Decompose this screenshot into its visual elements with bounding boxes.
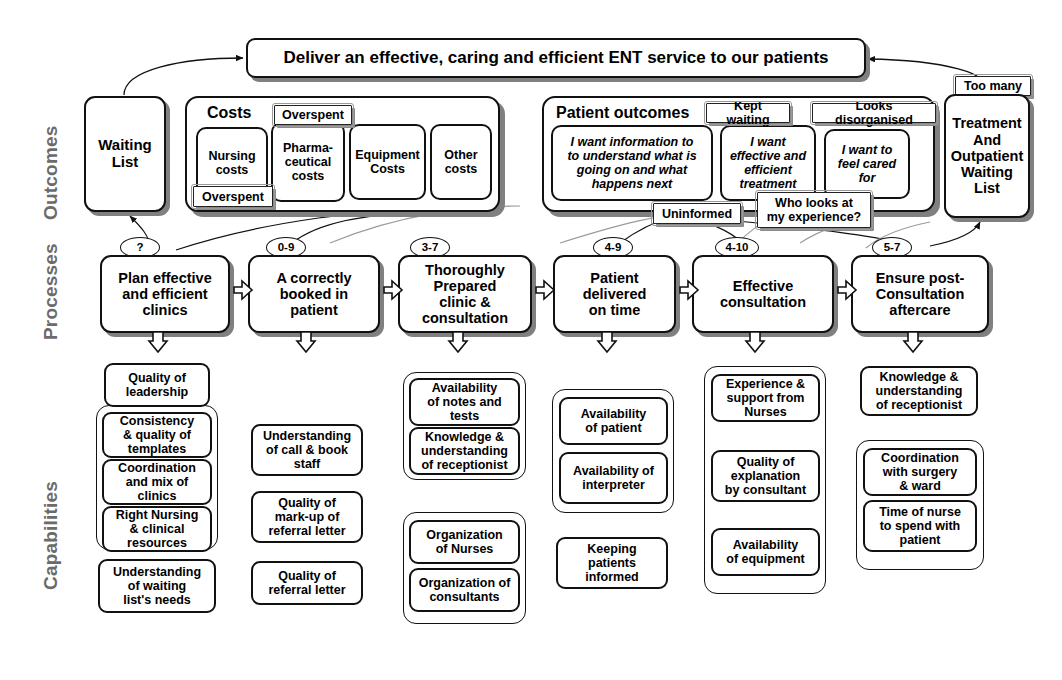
process-box-prepared-clinic: Thoroughly Prepared clinic & consultatio… — [398, 255, 532, 333]
capability-time-of-nurse-with-patient: Time of nurse to spend with patient — [863, 500, 977, 552]
outcome-treatment-waiting-list: Treatment And Outpatient Waiting List — [944, 94, 1030, 218]
title-banner: Deliver an effective, caring and efficie… — [246, 38, 866, 78]
tag-who-looks-at-my-experience-text: Who looks at my experience? — [767, 196, 862, 225]
capability-quality-referral-letter: Quality of referral letter — [251, 561, 363, 605]
patient-voice-cared-for-text: I want to feel cared for — [838, 143, 896, 185]
process-badge-1-text: ? — [136, 241, 143, 254]
capability-keeping-patients-informed: Keeping patients informed — [556, 537, 668, 589]
capability-quality-explanation-consultant-text: Quality of explanation by consultant — [725, 455, 806, 497]
capability-coordination-surgery-ward-text: Coordination with surgery & ward — [881, 451, 959, 493]
capability-availability-of-interpreter-text: Availability of interpreter — [573, 464, 654, 492]
patient-voice-cared-for: I want to feel cared for — [824, 129, 910, 199]
capability-knowledge-understanding-receptionist-col6: Knowledge & understanding of receptionis… — [860, 366, 978, 416]
process-box-prepared-clinic-text: Thoroughly Prepared clinic & consultatio… — [422, 262, 508, 327]
tag-kept-waiting-text: Kept waiting — [711, 99, 785, 127]
capability-understanding-call-book-staff: Understanding of call & book staff — [251, 424, 363, 476]
tag-overspent-top-text: Overspent — [282, 108, 344, 122]
capability-quality-of-leadership-text: Quality of leadership — [126, 371, 189, 399]
capability-quality-referral-letter-text: Quality of referral letter — [268, 569, 345, 597]
capability-understanding-waiting-list-text: Understanding of waiting list's needs — [113, 565, 201, 607]
capability-organization-of-consultants-text: Organization of consultants — [419, 576, 511, 604]
process-box-plan-clinics-text: Plan effective and efficient clinics — [118, 270, 212, 319]
diagram-canvas: Outcomes Processes Capabilities Deliver … — [0, 0, 1062, 680]
tag-overspent-top: Overspent — [274, 105, 352, 125]
capability-availability-of-equipment-text: Availability of equipment — [726, 538, 804, 566]
cost-box-pharmaceutical-text: Pharma- ceutical costs — [283, 141, 333, 183]
capability-right-nursing-resources-text: Right Nursing & clinical resources — [116, 508, 199, 550]
process-badge-6-text: 5-7 — [884, 241, 901, 254]
capability-availability-of-equipment: Availability of equipment — [711, 528, 820, 576]
process-badge-4-text: 4-9 — [605, 241, 622, 254]
capability-knowledge-understanding-receptionist-col3: Knowledge & understanding of receptionis… — [409, 427, 520, 475]
cost-box-equipment-text: Equipment Costs — [355, 148, 420, 176]
capability-quality-explanation-consultant: Quality of explanation by consultant — [711, 450, 820, 502]
cost-box-other-text: Other costs — [444, 148, 477, 176]
capability-keeping-patients-informed-text: Keeping patients informed — [585, 542, 638, 584]
cost-box-equipment: Equipment Costs — [349, 124, 426, 200]
capability-organization-of-consultants: Organization of consultants — [409, 568, 520, 612]
capability-quality-markup-referral: Quality of mark-up of referral letter — [251, 491, 363, 543]
cost-box-pharmaceutical: Pharma- ceutical costs — [271, 122, 345, 202]
tag-too-many: Too many — [955, 76, 1031, 96]
capability-experience-support-nurses: Experience & support from Nurses — [711, 374, 820, 422]
patient-voice-information-text: I want information to to understand what… — [567, 135, 696, 191]
tag-looks-disorganised: Looks disorganised — [812, 103, 936, 123]
row-label-capabilities: Capabilities — [40, 481, 62, 590]
tag-uninformed: Uninformed — [653, 203, 741, 224]
process-box-effective-consultation: Effective consultation — [692, 255, 834, 333]
process-badge-5-text: 4-10 — [725, 241, 748, 254]
cost-box-nursing-text: Nursing costs — [208, 149, 255, 177]
capability-coordination-mix-clinics: Coordination and mix of clinics — [102, 459, 212, 505]
row-label-outcomes: Outcomes — [40, 125, 62, 220]
capability-availability-of-patient-text: Availability of patient — [581, 407, 647, 435]
capability-organization-of-nurses-text: Organization of Nurses — [426, 528, 502, 556]
tag-overspent-bottom-text: Overspent — [202, 190, 264, 204]
process-badge-2-text: 0-9 — [278, 241, 295, 254]
outcome-waiting-list-text: Waiting List — [98, 137, 152, 171]
capability-consistency-templates: Consistency & quality of templates — [102, 412, 212, 458]
row-label-processes: Processes — [40, 243, 62, 340]
capability-understanding-waiting-list: Understanding of waiting list's needs — [98, 559, 216, 613]
process-box-post-consultation-aftercare: Ensure post- Consultation aftercare — [851, 255, 989, 333]
costs-group-label: Costs — [207, 104, 251, 122]
tag-kept-waiting: Kept waiting — [706, 103, 790, 123]
patient-voice-treatment: I want effective and efficient treatment — [720, 125, 816, 201]
capability-coordination-surgery-ward: Coordination with surgery & ward — [863, 448, 977, 496]
process-box-patient-delivered: Patient delivered on time — [553, 255, 676, 333]
capability-knowledge-understanding-receptionist-col6-text: Knowledge & understanding of receptionis… — [876, 370, 963, 412]
process-box-booked-in-patient: A correctly booked in patient — [248, 255, 380, 333]
process-badge-3-text: 3-7 — [422, 241, 439, 254]
capability-experience-support-nurses-text: Experience & support from Nurses — [726, 377, 805, 419]
tag-uninformed-text: Uninformed — [662, 207, 732, 221]
process-box-effective-consultation-text: Effective consultation — [720, 278, 806, 310]
tag-too-many-text: Too many — [964, 79, 1022, 93]
outcome-waiting-list: Waiting List — [84, 96, 166, 212]
capability-time-of-nurse-with-patient-text: Time of nurse to spend with patient — [879, 505, 961, 547]
title-banner-text: Deliver an effective, caring and efficie… — [283, 48, 828, 67]
patient-outcomes-group-label: Patient outcomes — [556, 104, 689, 122]
capability-availability-of-patient: Availability of patient — [559, 397, 668, 445]
capability-availability-of-interpreter: Availability of interpreter — [559, 452, 668, 504]
capability-organization-of-nurses: Organization of Nurses — [409, 520, 520, 564]
capability-coordination-mix-clinics-text: Coordination and mix of clinics — [118, 461, 196, 503]
tag-who-looks-at-my-experience: Who looks at my experience? — [757, 192, 871, 228]
process-box-booked-in-patient-text: A correctly booked in patient — [276, 270, 351, 319]
process-box-plan-clinics: Plan effective and efficient clinics — [100, 255, 230, 333]
cost-box-other: Other costs — [430, 124, 492, 200]
capability-availability-notes-tests: Availability of notes and tests — [409, 378, 520, 426]
capability-understanding-call-book-staff-text: Understanding of call & book staff — [263, 429, 351, 471]
patient-voice-treatment-text: I want effective and efficient treatment — [730, 135, 806, 191]
capability-availability-notes-tests-text: Availability of notes and tests — [427, 381, 501, 423]
outcome-treatment-waiting-list-text: Treatment And Outpatient Waiting List — [951, 115, 1024, 196]
patient-voice-information: I want information to to understand what… — [551, 125, 713, 201]
capability-right-nursing-resources: Right Nursing & clinical resources — [102, 506, 212, 552]
capability-quality-of-leadership: Quality of leadership — [104, 363, 210, 407]
capability-consistency-templates-text: Consistency & quality of templates — [120, 414, 194, 456]
process-box-post-consultation-aftercare-text: Ensure post- Consultation aftercare — [876, 270, 965, 319]
capability-quality-markup-referral-text: Quality of mark-up of referral letter — [268, 496, 345, 538]
process-box-patient-delivered-text: Patient delivered on time — [583, 270, 647, 319]
tag-looks-disorganised-text: Looks disorganised — [817, 99, 931, 127]
capability-knowledge-understanding-receptionist-col3-text: Knowledge & understanding of receptionis… — [421, 430, 508, 472]
tag-overspent-bottom: Overspent — [193, 186, 273, 207]
